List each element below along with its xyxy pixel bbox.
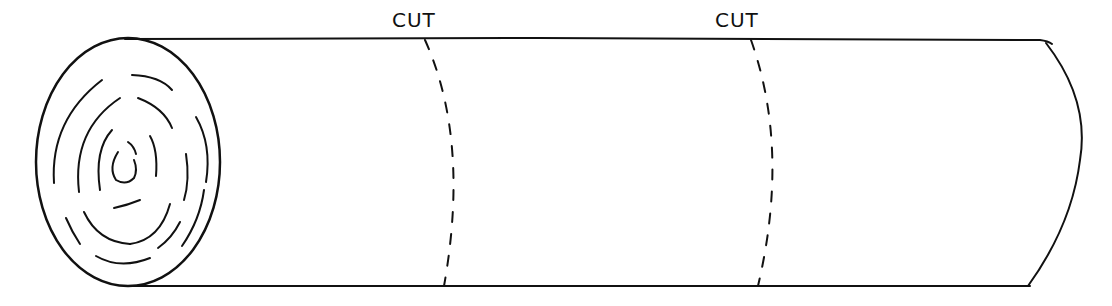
cut-line-2 (751, 40, 772, 286)
log-top-edge (125, 38, 1052, 44)
growth-rings (54, 75, 208, 264)
cut-label-1: CUT (392, 8, 436, 32)
log-end-face (36, 38, 220, 286)
log-diagram: CUT CUT (0, 0, 1112, 306)
cut-label-2: CUT (715, 8, 759, 32)
log-right-end (1028, 43, 1082, 286)
cut-line-1 (425, 40, 454, 286)
